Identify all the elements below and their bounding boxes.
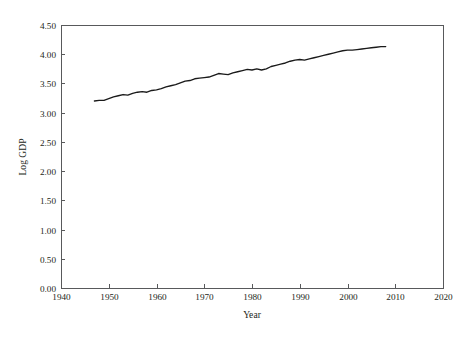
- x-tick-label: 1950: [100, 292, 119, 302]
- y-axis-title: Log GDP: [17, 138, 28, 175]
- x-axis-tick-labels: 194019501960197019801990200020102020: [52, 292, 453, 302]
- x-tick-label: 1990: [291, 292, 310, 302]
- x-tick-label: 2000: [339, 292, 358, 302]
- y-tick-label: 1.50: [40, 196, 56, 206]
- y-tick-label: 2.50: [40, 138, 56, 148]
- y-tick-label: 3.00: [40, 109, 56, 119]
- x-tick-label: 2010: [386, 292, 405, 302]
- y-tick-label: 3.50: [40, 79, 56, 89]
- y-tick-label: 0.00: [40, 284, 56, 294]
- log-gdp-line-chart: 194019501960197019801990200020102020 0.0…: [0, 0, 471, 340]
- y-tick-label: 2.00: [40, 167, 56, 177]
- x-tick-label: 1980: [243, 292, 262, 302]
- y-tick-label: 4.00: [40, 50, 56, 60]
- y-tick-label: 0.50: [40, 255, 56, 265]
- x-tick-label: 2020: [434, 292, 453, 302]
- chart-figure: 194019501960197019801990200020102020 0.0…: [0, 0, 471, 340]
- x-axis-title: Year: [243, 309, 261, 320]
- x-tick-label: 1970: [195, 292, 214, 302]
- y-tick-label: 1.00: [40, 226, 56, 236]
- y-tick-label: 4.50: [40, 21, 56, 31]
- x-tick-label: 1960: [148, 292, 167, 302]
